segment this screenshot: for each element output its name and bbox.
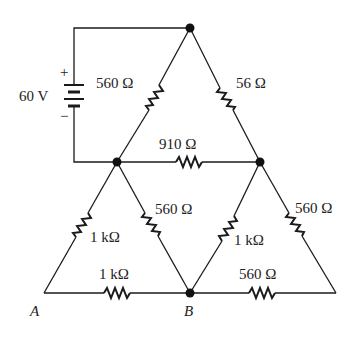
wire	[117, 110, 149, 162]
node-top	[186, 24, 195, 33]
battery-icon	[64, 85, 84, 106]
resistor-middle-label: 910 Ω	[159, 136, 196, 152]
resistor-bottom-right-label: 560 Ω	[239, 266, 276, 282]
wire	[190, 28, 220, 88]
resistor-top-right-label: 56 Ω	[236, 75, 266, 91]
terminal-b-label: B	[184, 303, 193, 319]
wire	[190, 241, 222, 293]
resistor-bottom-left	[104, 288, 130, 298]
wire	[158, 236, 190, 293]
resistor-center-left-label: 560 Ω	[155, 201, 192, 217]
resistor-top-left	[146, 85, 163, 110]
resistor-bottom-left-label: 1 kΩ	[99, 266, 129, 282]
battery-minus-sign: −	[60, 108, 68, 124]
wire	[159, 28, 190, 85]
wire	[233, 110, 260, 162]
wire	[260, 162, 289, 213]
resistor-right-outer-label: 560 Ω	[295, 200, 332, 216]
circuit-diagram: + − 60 V 560 Ω 56 Ω 910 Ω 1 kΩ 560 Ω 1 k…	[0, 0, 361, 348]
resistor-bottom-right	[249, 288, 275, 298]
wire	[234, 162, 260, 216]
resistor-left-outer	[73, 213, 91, 237]
wire	[88, 162, 117, 213]
terminal-a-label: A	[29, 303, 40, 319]
wire	[44, 237, 76, 293]
source-voltage-label: 60 V	[19, 88, 48, 104]
resistor-center-right-label: 1 kΩ	[234, 232, 264, 248]
node-middle-right	[256, 158, 265, 167]
node-middle-left	[113, 158, 122, 167]
battery-plus-sign: +	[60, 64, 68, 80]
battery-bottom-wire	[74, 107, 117, 162]
resistor-top-right	[217, 88, 235, 110]
resistor-left-outer-label: 1 kΩ	[90, 229, 120, 245]
node-b	[186, 289, 195, 298]
resistor-middle	[176, 157, 202, 167]
wire	[302, 236, 336, 293]
resistor-right-outer	[286, 213, 304, 236]
resistor-top-left-label: 560 Ω	[96, 75, 133, 91]
wire	[117, 162, 145, 213]
